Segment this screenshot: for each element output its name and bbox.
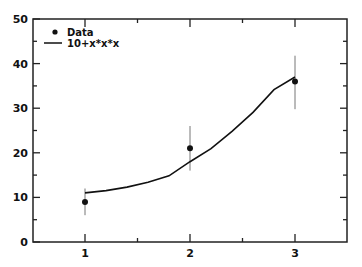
legend-marker-icon [52,29,57,34]
legend: Data 10+x*x*x [44,27,120,49]
x-tick-label: 1 [81,247,89,260]
error-bars [85,56,295,216]
legend-label-data: Data [67,27,94,38]
y-tick-label: 10 [13,191,29,204]
y-tick-label: 30 [13,102,29,115]
y-tick-label: 40 [13,58,29,71]
y-tick-label: 50 [13,13,29,26]
x-tick-label: 2 [186,247,194,260]
y-tick-label: 0 [20,236,28,249]
chart: 0 10 20 30 40 50 1 2 3 Data 10+x*x*x [0,0,362,267]
legend-label-curve: 10+x*x*x [67,38,120,49]
y-tick-label: 20 [13,147,29,160]
x-tick-label: 3 [291,247,299,260]
x-axis-labels: 1 2 3 [81,247,299,260]
y-axis-labels: 0 10 20 30 40 50 [13,13,29,249]
